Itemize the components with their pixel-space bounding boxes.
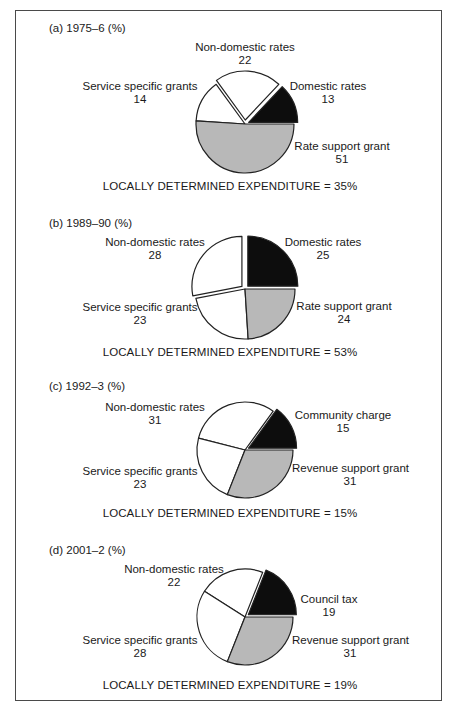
label-revenue-support-grant-d: Revenue support grant31 <box>292 634 408 660</box>
label-council-tax-d: Council tax19 <box>298 593 360 619</box>
label-service-specific-grants-d: Service specific grants28 <box>80 634 200 660</box>
pie-slice-service-specific-grants <box>196 289 248 339</box>
pie-slice-rate-support-grant <box>196 121 294 173</box>
pie-chart-1975 <box>196 71 298 173</box>
label-non-domestic-rates-b: Non-domestic rates28 <box>105 236 205 262</box>
label-service-specific-grants-b: Service specific grants23 <box>80 301 200 327</box>
panel-title-c: (c) 1992–3 (%) <box>49 380 125 393</box>
pie-slice-rate-support-grant <box>245 289 295 339</box>
panel-title-d: (d) 2001–2 (%) <box>49 544 126 557</box>
label-revenue-support-grant-c: Revenue support grant31 <box>292 462 408 488</box>
pie-chart-1989 <box>192 236 298 339</box>
panel-title-b: (b) 1989–90 (%) <box>49 217 132 230</box>
label-rate-support-grant-b: Rate support grant24 <box>294 300 394 326</box>
label-domestic-rates-b: Domestic rates25 <box>283 236 363 262</box>
footer-a: LOCALLY DETERMINED EXPENDITURE = 35% <box>100 180 360 193</box>
label-non-domestic-rates-a: Non-domestic rates22 <box>190 41 300 67</box>
label-non-domestic-rates-c: Non-domestic rates31 <box>105 401 205 427</box>
label-community-charge-c: Community charge15 <box>293 409 393 435</box>
label-non-domestic-rates-d: Non-domestic rates22 <box>124 563 224 589</box>
label-rate-support-grant-a: Rate support grant51 <box>292 140 392 166</box>
pie-chart-1992 <box>197 402 297 498</box>
footer-c: LOCALLY DETERMINED EXPENDITURE = 15% <box>100 507 360 520</box>
label-service-specific-grants-c: Service specific grants23 <box>80 465 200 491</box>
panel-title-a: (a) 1975–6 (%) <box>49 22 126 35</box>
footer-d: LOCALLY DETERMINED EXPENDITURE = 19% <box>100 679 360 692</box>
label-service-specific-grants-a: Service specific grants14 <box>80 80 200 106</box>
footer-b: LOCALLY DETERMINED EXPENDITURE = 53% <box>100 346 360 359</box>
label-domestic-rates-a: Domestic rates13 <box>288 80 368 106</box>
